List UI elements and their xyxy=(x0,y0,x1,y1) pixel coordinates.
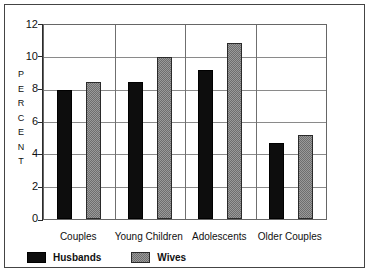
bar-wives-older-couples[interactable] xyxy=(298,135,313,219)
bar-wives-young-children[interactable] xyxy=(157,57,172,219)
y-tick-mark xyxy=(38,89,42,90)
y-tick-mark xyxy=(38,122,42,123)
y-tick-label: 4 xyxy=(8,148,38,159)
gridline-vertical xyxy=(256,25,257,219)
y-tick-label: 8 xyxy=(8,83,38,94)
legend-label-husbands: Husbands xyxy=(53,252,101,263)
chart-figure-frame: P E R C E N T 12 10 8 6 4 2 0 CouplesYou… xyxy=(4,4,365,268)
x-axis-label-older-couples: Older Couples xyxy=(230,231,350,242)
bar-husbands-young-children[interactable] xyxy=(128,82,143,219)
y-tick-label: 10 xyxy=(8,51,38,62)
legend-swatch-icon-husbands xyxy=(27,252,46,263)
plot-area xyxy=(43,24,327,220)
bar-husbands-older-couples[interactable] xyxy=(269,143,284,219)
chart-legend: Husbands Wives xyxy=(27,252,216,263)
legend-item-husbands[interactable]: Husbands xyxy=(27,252,101,263)
y-tick-label: 12 xyxy=(8,19,38,30)
y-tick-mark xyxy=(38,56,42,57)
legend-swatch-icon-wives xyxy=(131,252,150,263)
y-tick-mark xyxy=(38,24,42,25)
y-tick-label: 6 xyxy=(8,116,38,127)
bar-husbands-couples[interactable] xyxy=(57,90,72,219)
y-tick-mark xyxy=(38,220,42,221)
bar-wives-couples[interactable] xyxy=(86,82,101,219)
y-tick-mark xyxy=(38,154,42,155)
gridline-vertical xyxy=(185,25,186,219)
bar-husbands-adolescents[interactable] xyxy=(198,70,213,219)
gridline-vertical xyxy=(115,25,116,219)
y-tick-label: 2 xyxy=(8,181,38,192)
legend-item-wives[interactable]: Wives xyxy=(131,252,186,263)
y-tick-label: 0 xyxy=(8,213,38,224)
y-tick-mark xyxy=(38,187,42,188)
bar-wives-adolescents[interactable] xyxy=(227,43,242,219)
legend-label-wives: Wives xyxy=(157,252,186,263)
